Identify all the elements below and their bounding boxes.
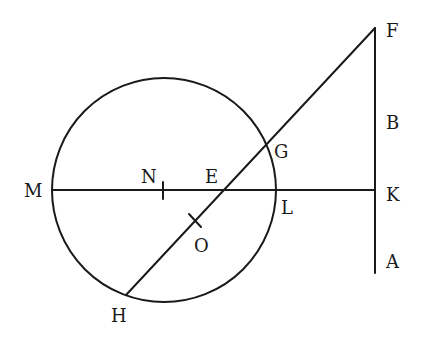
- label-o: O: [194, 235, 209, 256]
- label-g: G: [274, 141, 288, 162]
- label-m: M: [24, 180, 42, 201]
- geometry-diagram: M N E O G L H F B K A: [0, 0, 425, 338]
- label-b: B: [386, 112, 399, 133]
- label-f: F: [386, 20, 399, 41]
- label-l: L: [281, 197, 293, 218]
- label-h: H: [111, 305, 127, 326]
- label-k: K: [386, 184, 400, 205]
- segment-fh: [126, 28, 375, 295]
- label-a: A: [385, 251, 400, 272]
- label-e: E: [205, 166, 218, 187]
- label-n: N: [141, 166, 157, 187]
